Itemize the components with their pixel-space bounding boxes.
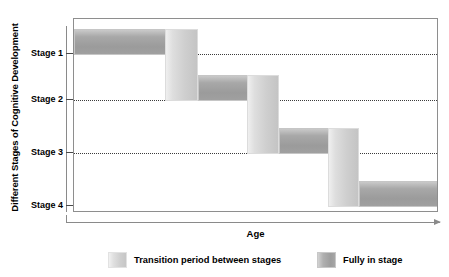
chart-container: Different Stages of Cognitive Developmen… — [0, 0, 449, 277]
bar-transition-stage-3-to-4 — [328, 128, 359, 207]
legend-item-transition: Transition period between stages — [108, 252, 281, 268]
y-tick-label-stage-1: Stage 1 — [1, 48, 63, 58]
chart-legend: Transition period between stages Fully i… — [0, 249, 449, 271]
bar-transition-stage-2-to-3 — [247, 75, 279, 154]
bar-transition-stage-1-to-2 — [165, 29, 198, 101]
legend-swatch-fully-in-stage-icon — [317, 252, 336, 268]
x-axis-arrow-icon — [434, 219, 441, 225]
legend-item-fully-in-stage: Fully in stage — [317, 252, 402, 268]
legend-label-fully-in-stage: Fully in stage — [343, 255, 402, 265]
plot-area — [73, 18, 438, 212]
y-axis-tick-labels: Stage 1 Stage 2 Stage 3 Stage 4 — [0, 0, 63, 277]
y-tick-label-stage-2: Stage 2 — [1, 94, 63, 104]
legend-label-transition: Transition period between stages — [134, 255, 281, 265]
bar-fully-in-stage-4 — [359, 181, 438, 207]
x-axis-line — [66, 222, 440, 223]
legend-swatch-transition-icon — [108, 252, 127, 268]
x-axis-title: Age — [73, 228, 438, 239]
y-tick-label-stage-4: Stage 4 — [1, 200, 63, 210]
y-tick-label-stage-3: Stage 3 — [1, 147, 63, 157]
